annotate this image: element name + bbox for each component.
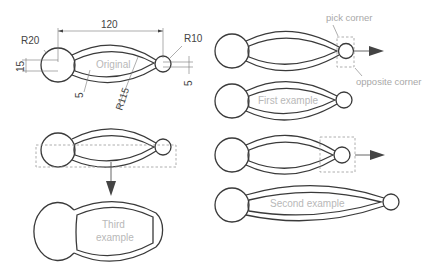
second-stretch-source xyxy=(215,135,350,174)
stretch-diagram: Original 120 R20 R10 15 5 R115 5 xyxy=(0,0,444,271)
opposite-corner-label: opposite corner xyxy=(356,76,421,87)
third-stretch-source xyxy=(41,129,171,167)
arrow-down-icon xyxy=(106,181,116,196)
first-example-label: First example xyxy=(258,95,318,106)
dim-neck-width: 15 xyxy=(15,60,26,72)
third-example-label-line2: example xyxy=(96,232,134,243)
dim-length-120: 120 xyxy=(101,19,118,30)
dim-arc-radius: R115 xyxy=(113,86,131,112)
second-example-label: Second example xyxy=(270,198,345,209)
outer-bottom-arc xyxy=(72,68,156,83)
original-label: Original xyxy=(96,59,130,70)
arrow-right-icon xyxy=(369,46,384,56)
dim-wall-thickness: 5 xyxy=(74,92,85,98)
arrow-right-icon xyxy=(370,150,385,160)
dim-big-radius: R20 xyxy=(21,35,40,46)
pick-corner-label: pick corner xyxy=(326,12,372,23)
third-example-label-line1: Third xyxy=(102,219,125,230)
selection-window xyxy=(337,37,354,67)
dim-small-gap: 5 xyxy=(183,80,194,86)
first-stretch-source xyxy=(215,31,354,70)
small-circle xyxy=(155,56,171,72)
dim-small-radius: R10 xyxy=(184,33,203,44)
